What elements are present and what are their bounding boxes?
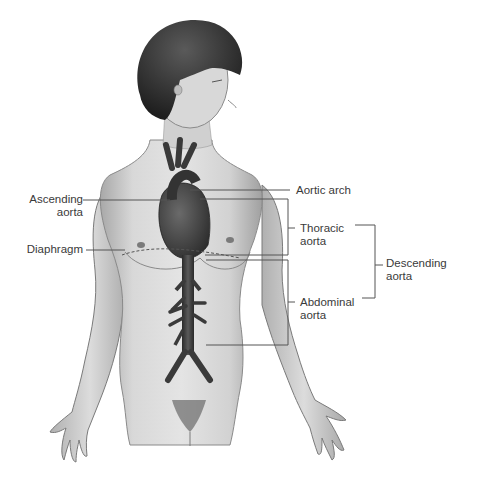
label-thoracic-aorta: Thoracic aorta (300, 222, 344, 248)
label-aortic-arch: Aortic arch (296, 184, 351, 197)
label-ascending-aorta: Ascending aorta (10, 193, 83, 219)
label-descending-aorta: Descending aorta (386, 257, 447, 283)
descending-aorta-bracket (355, 225, 375, 298)
aorta-anatomy-diagram: Ascending aorta Diaphragm Aortic arch Th… (0, 0, 479, 504)
label-abdominal-aorta: Abdominal aorta (300, 296, 354, 322)
ear (174, 85, 182, 95)
head (137, 20, 242, 128)
label-diaphragm: Diaphragm (10, 243, 83, 256)
